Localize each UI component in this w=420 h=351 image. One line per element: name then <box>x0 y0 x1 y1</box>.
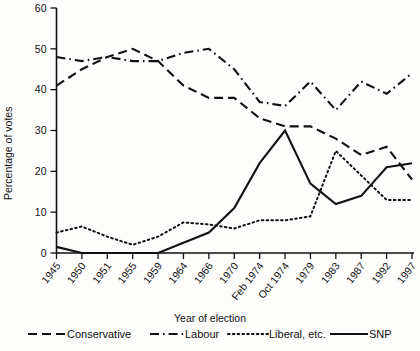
x-tick-label: 1979 <box>293 260 317 286</box>
y-axis-ticks: 0102030405060 <box>35 2 57 259</box>
x-tick-label: 1959 <box>140 260 164 286</box>
x-tick-label: 1950 <box>64 260 88 286</box>
x-axis-tick-labels: 19451950195119551959196419661970Feb 1974… <box>39 260 418 302</box>
x-tick-label: 1955 <box>115 260 139 286</box>
legend-label-conservative: Conservative <box>67 328 131 340</box>
y-tick-label: 0 <box>41 247 47 259</box>
legend-label-liberal-etc: Liberal, etc. <box>269 328 326 340</box>
x-axis-title: Year of election <box>174 312 246 324</box>
plot-series-group <box>57 49 413 253</box>
axis-lines <box>57 8 415 253</box>
legend-label-snp: SNP <box>369 328 392 340</box>
y-axis-title: Percentage of votes <box>2 107 14 200</box>
chart-legend: ConservativeLabourLiberal, etc.SNP <box>28 328 392 340</box>
y-tick-label: 10 <box>35 206 47 218</box>
y-tick-label: 40 <box>35 83 47 95</box>
y-tick-label: 50 <box>35 43 47 55</box>
series-line-labour <box>57 49 413 110</box>
series-line-snp <box>57 131 413 254</box>
y-tick-label: 60 <box>35 2 47 14</box>
x-tick-label: 1945 <box>39 260 63 286</box>
x-tick-label: 1966 <box>191 260 215 286</box>
x-tick-label: 1951 <box>90 260 114 286</box>
y-tick-label: 20 <box>35 165 47 177</box>
chart-svg: Percentage of votes 0102030405060 194519… <box>0 0 420 351</box>
x-tick-label: 1970 <box>216 260 240 286</box>
y-tick-label: 30 <box>35 124 47 136</box>
x-tick-label: 1987 <box>343 260 367 286</box>
x-tick-label: 1983 <box>318 260 342 286</box>
x-tick-label: 1964 <box>166 260 190 286</box>
x-tick-label: 1997 <box>394 260 418 286</box>
x-tick-label: 1992 <box>369 260 393 286</box>
election-vote-share-chart: Percentage of votes 0102030405060 194519… <box>0 0 420 351</box>
series-line-liberal-etc <box>57 151 413 245</box>
legend-label-labour: Labour <box>185 328 220 340</box>
